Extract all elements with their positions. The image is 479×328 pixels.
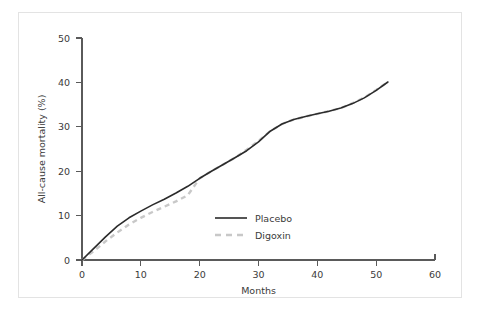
y-axis-title: All-cause mortality (%)	[36, 95, 47, 204]
chart-legend: Placebo Digoxin	[215, 213, 292, 241]
x-axis	[82, 254, 435, 260]
y-tick-label-30: 30	[58, 121, 70, 132]
x-tick-label-50: 50	[370, 269, 382, 280]
legend-label-digoxin: Digoxin	[255, 230, 291, 241]
figure-caption	[20, 316, 140, 324]
x-axis-title: Months	[241, 285, 276, 296]
x-tick-label-10: 10	[135, 269, 147, 280]
y-tick-label-0: 0	[64, 255, 70, 266]
x-tick-label-0: 0	[79, 269, 85, 280]
x-tick-label-30: 30	[252, 269, 264, 280]
x-tick-label-60: 60	[429, 269, 441, 280]
y-tick-group: 50 40 30 20 10 0	[58, 33, 82, 266]
x-tick-label-20: 20	[194, 269, 206, 280]
y-tick-label-40: 40	[58, 77, 70, 88]
figure-panel: 50 40 30 20 10 0 0 10 20 30 40	[18, 12, 462, 298]
series-line-digoxin	[82, 82, 388, 260]
x-tick-group: 0 10 20 30 40 50 60	[79, 260, 441, 280]
line-chart: 50 40 30 20 10 0 0 10 20 30 40	[19, 13, 463, 299]
x-tick-label-40: 40	[311, 269, 323, 280]
series-group	[82, 82, 388, 260]
y-tick-label-20: 20	[58, 166, 70, 177]
y-tick-label-50: 50	[58, 33, 70, 44]
y-tick-label-10: 10	[58, 210, 70, 221]
legend-label-placebo: Placebo	[255, 213, 292, 224]
